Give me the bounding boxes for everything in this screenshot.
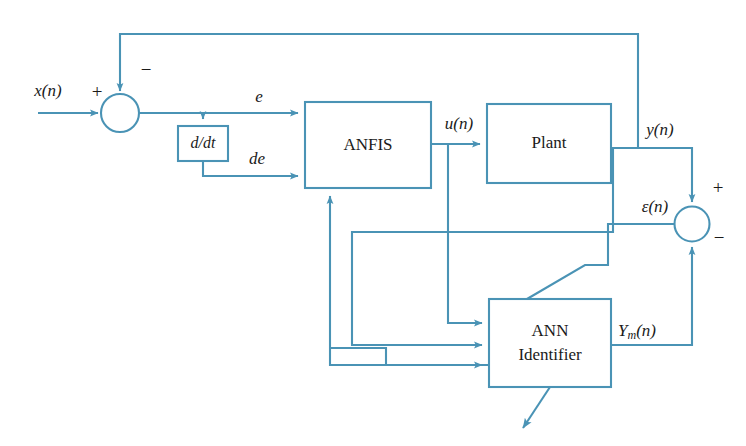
wire-lower-rail-to-ann (330, 348, 482, 365)
label-sum-error-minus: − (141, 59, 152, 80)
block-ann-label-line2: Identifier (518, 345, 582, 364)
svg-text:Ym(n): Ym(n) (618, 321, 656, 342)
wire-epsilon-to-ann (527, 224, 674, 299)
block-ann-label-line1: ANN (532, 321, 569, 340)
summing-junction-epsilon (675, 207, 710, 242)
label-plant-output-signal: y(n) (644, 120, 674, 139)
block-anfis-label: ANFIS (343, 135, 392, 154)
label-error-derivative-signal: de (249, 149, 266, 168)
diagram-svg: x(n) + − e de d/dt ANFIS Plant ANN Ident… (0, 0, 746, 446)
block-ann-rect (489, 299, 611, 387)
wire-ann-training-output (523, 387, 550, 428)
block-diagram-canvas: x(n) + − e de d/dt ANFIS Plant ANN Ident… (0, 0, 746, 446)
label-error-signal: e (255, 87, 263, 106)
wire-control-to-ann (448, 144, 482, 323)
wire-plant-output (611, 148, 692, 202)
block-plant-label: Plant (532, 133, 567, 152)
wire-ann-feedback-to-anfis (330, 196, 489, 365)
label-reference-signal: x(n) (33, 81, 62, 100)
summing-junction-error (101, 94, 139, 132)
label-sum-epsilon-minus: − (714, 227, 725, 248)
label-sum-epsilon-plus: + (713, 177, 724, 198)
label-model-output-signal: Ym(n) (618, 321, 656, 342)
wire-output-feedback-top (120, 34, 638, 148)
label-model-output-sub: m (627, 328, 636, 342)
block-ddt-label: d/dt (191, 134, 216, 151)
label-control-signal: u(n) (445, 114, 474, 133)
label-identification-error-signal: ε(n) (642, 197, 669, 216)
label-model-output-tail: (n) (636, 321, 656, 340)
wire-plant-output-to-ann (352, 148, 638, 345)
label-sum-error-plus: + (92, 81, 103, 102)
